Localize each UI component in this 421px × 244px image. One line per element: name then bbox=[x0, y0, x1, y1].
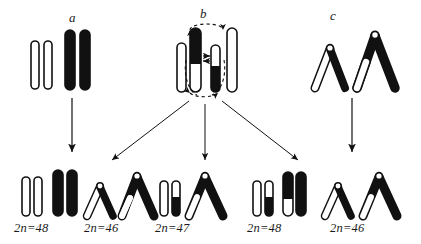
parent-a-rods bbox=[31, 30, 90, 90]
group-letter-a: a bbox=[69, 10, 76, 26]
rod-black-1 bbox=[65, 30, 75, 90]
rod-black-lower-white-tip bbox=[283, 172, 293, 216]
rod-white-outer-right bbox=[227, 28, 237, 92]
offspring-group-3 bbox=[160, 173, 223, 216]
rod-half-black-bottom bbox=[265, 181, 273, 216]
karyotype-label-1: 2n=48 bbox=[14, 221, 48, 236]
rod-white-2 bbox=[44, 41, 52, 89]
parent-c-chevrons bbox=[314, 31, 395, 88]
rod-white-1 bbox=[160, 181, 168, 216]
rod-white-1 bbox=[253, 181, 261, 216]
rod-half-black-bottom bbox=[172, 181, 180, 216]
rod-black-2 bbox=[67, 170, 77, 216]
parent-b-rods bbox=[177, 24, 237, 97]
karyotype-label-5: 2n=46 bbox=[330, 221, 364, 236]
rod-white-2 bbox=[34, 177, 42, 216]
rod-black-full bbox=[296, 172, 306, 216]
chevron-small-white bbox=[325, 183, 351, 216]
rod-white-1 bbox=[22, 177, 30, 216]
chevron-small-white bbox=[87, 183, 113, 216]
karyotype-label-4: 2n=48 bbox=[247, 221, 281, 236]
chevron-large-black bbox=[357, 31, 395, 88]
chevron-large-black bbox=[189, 173, 223, 216]
chevron-large-black bbox=[363, 173, 397, 216]
rod-black-top-inner-left bbox=[190, 28, 201, 92]
chevron-small-white bbox=[314, 45, 345, 88]
exchange-arrows bbox=[203, 56, 210, 61]
rod-black-2 bbox=[80, 30, 90, 90]
rod-black-1 bbox=[53, 170, 63, 216]
offspring-group-4 bbox=[253, 172, 306, 216]
arrow-b-to-left-offspring bbox=[112, 101, 189, 160]
rod-white-outer-left bbox=[177, 43, 186, 92]
karyotype-label-3: 2n=47 bbox=[155, 221, 189, 236]
chevron-large-black bbox=[122, 173, 154, 216]
chromosome-diagram bbox=[0, 0, 421, 244]
offspring-group-1 bbox=[22, 170, 77, 216]
rod-black-bottom-inner-right bbox=[211, 45, 220, 92]
arrow-b-to-right-offspring bbox=[222, 101, 298, 160]
group-letter-c: c bbox=[330, 8, 336, 24]
rod-white-1 bbox=[31, 41, 39, 89]
offspring-group-5 bbox=[325, 173, 397, 216]
group-letter-b: b bbox=[200, 6, 207, 22]
offspring-group-2 bbox=[87, 173, 154, 216]
karyotype-label-2: 2n=46 bbox=[84, 221, 118, 236]
